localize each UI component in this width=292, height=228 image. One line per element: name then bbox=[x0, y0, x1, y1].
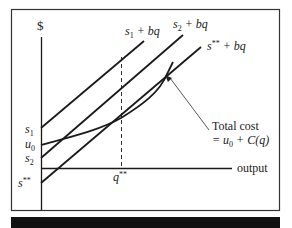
cost-diagram: $ output s1 + bq s2 + bq s** + bq Total … bbox=[0, 0, 292, 228]
line-s1-plus-bq bbox=[41, 41, 144, 128]
x-axis-label: output bbox=[237, 161, 268, 175]
intercept-label-s1: s1 bbox=[25, 122, 34, 138]
bottom-rule-bar bbox=[11, 217, 280, 228]
label-sss-plus-bq: s** + bq bbox=[207, 39, 246, 53]
label-s1-plus-bq: s1 + bq bbox=[125, 24, 160, 40]
total-cost-curve bbox=[41, 62, 173, 145]
total-cost-formula: = u0 + C(q) bbox=[212, 133, 269, 149]
y-axis-label: $ bbox=[37, 18, 44, 33]
intercept-label-sss: s** bbox=[18, 176, 31, 190]
q-star-label: q** bbox=[113, 170, 127, 184]
intercept-label-s2: s2 bbox=[25, 151, 34, 167]
total-cost-label: Total cost bbox=[212, 119, 259, 133]
leader-arrowhead-icon bbox=[165, 75, 172, 82]
label-s2-plus-bq: s2 + bq bbox=[173, 17, 208, 33]
total-cost-leader-line bbox=[170, 78, 209, 130]
